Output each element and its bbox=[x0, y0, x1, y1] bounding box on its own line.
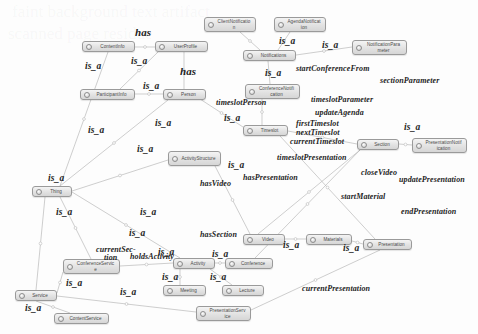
node-notifications[interactable]: Notifications bbox=[243, 50, 296, 61]
node-label: Timeslot bbox=[256, 128, 283, 133]
edge-midpoint-marker bbox=[220, 112, 223, 115]
node-meeting[interactable]: Meeting bbox=[163, 285, 206, 296]
edge-label-isa-3: is_a bbox=[279, 36, 295, 46]
edge-label-updateAgenda: updateAgenda bbox=[315, 108, 364, 117]
edge-label-sectionParameter: sectionParameter bbox=[380, 76, 439, 85]
node-label: ContentService bbox=[67, 316, 104, 321]
edge-label-hasPresentation: hasPresentation bbox=[243, 173, 298, 182]
edge-service-to-conferenceService bbox=[57, 272, 63, 293]
node-notificationParameter[interactable]: NotificationParameter bbox=[352, 40, 407, 55]
node-presentation[interactable]: Presentation bbox=[363, 239, 412, 250]
edge-label-timeslotPresentation: timeslotPresentation bbox=[277, 153, 347, 162]
node-label: Presentation bbox=[376, 242, 407, 247]
class-bullet-icon bbox=[36, 189, 42, 195]
node-presentationService[interactable]: PresentationService bbox=[196, 306, 251, 321]
node-conference[interactable]: Conference bbox=[225, 258, 273, 269]
edge-label-isa-11: is_a bbox=[228, 160, 244, 170]
node-label: ContentInfo bbox=[95, 44, 130, 49]
edge-label-isa-13: is_a bbox=[137, 144, 153, 154]
node-timeslot[interactable]: Timeslot bbox=[243, 125, 288, 136]
edge-midpoint-marker bbox=[249, 40, 252, 43]
edge-midpoint-marker bbox=[404, 143, 407, 146]
edge-thing-to-service bbox=[36, 197, 45, 290]
node-agendaNotification[interactable]: AgendaNotification bbox=[274, 17, 326, 32]
edge-label-isa-20: is_a bbox=[212, 249, 228, 259]
edge-midpoint-marker bbox=[39, 242, 42, 245]
class-bullet-icon bbox=[167, 288, 173, 294]
edge-label-isa-15: is_a bbox=[140, 207, 156, 217]
node-video[interactable]: Video bbox=[243, 234, 285, 245]
edge-label-isa-23: is_a bbox=[210, 272, 226, 282]
class-bullet-icon bbox=[200, 311, 206, 317]
edge-label-startConferenceFrom: startConferenceFrom bbox=[296, 64, 369, 73]
edge-label-closeVideo: closeVideo bbox=[361, 168, 397, 177]
node-service[interactable]: Service bbox=[15, 290, 57, 301]
edge-midpoint-marker bbox=[144, 46, 147, 49]
node-contentService[interactable]: ContentService bbox=[54, 313, 109, 324]
class-bullet-icon bbox=[177, 261, 183, 267]
node-activity[interactable]: Activity bbox=[173, 258, 215, 269]
edge-label-firstTimeslot: firstTimeslot bbox=[296, 119, 339, 128]
node-label: Lecture bbox=[235, 288, 259, 293]
edge-label-isa-18: is_a bbox=[343, 243, 359, 253]
node-section[interactable]: Section bbox=[357, 139, 399, 150]
edge-midpoint-marker bbox=[323, 50, 326, 53]
node-label: Thing bbox=[45, 189, 67, 194]
edge-label-currentPresentation: currentPresentation bbox=[302, 284, 370, 293]
class-bullet-icon bbox=[356, 45, 362, 51]
node-label: ActivityStructure bbox=[181, 156, 216, 161]
node-conferenceNotification[interactable]: ConferenceNotification bbox=[245, 84, 300, 99]
edge-label-has-top: has bbox=[135, 26, 151, 38]
node-person[interactable]: Person bbox=[163, 89, 206, 100]
edge-midpoint-marker bbox=[306, 203, 309, 206]
node-label: PresentationService bbox=[209, 308, 246, 318]
node-userProfile[interactable]: UserProfile bbox=[155, 41, 208, 52]
node-label: Person bbox=[176, 92, 201, 97]
node-participantInfo[interactable]: ParticipantInfo bbox=[80, 89, 135, 100]
edge-midpoint-marker bbox=[83, 118, 86, 121]
edge-label-timeslotParameter: timeslotParameter bbox=[311, 95, 373, 104]
node-clientNotification[interactable]: ClientNotification bbox=[204, 17, 256, 32]
edge-midpoint-marker bbox=[314, 279, 317, 282]
node-activityStructure[interactable]: ActivityStructure bbox=[168, 151, 221, 166]
edge-midpoint-marker bbox=[179, 276, 182, 279]
class-bullet-icon bbox=[167, 92, 173, 98]
edge-label-isa-19: is_a bbox=[158, 247, 174, 257]
edge-label-isa-12: is_a bbox=[48, 173, 64, 183]
edge-label-isa-22: is_a bbox=[162, 272, 178, 282]
edge-midpoint-marker bbox=[125, 224, 128, 227]
edge-midpoint-marker bbox=[119, 174, 122, 177]
edge-midpoint-marker bbox=[231, 199, 234, 202]
edge-midpoint-marker bbox=[148, 93, 151, 96]
class-bullet-icon bbox=[159, 44, 165, 50]
edge-label-hasVideo: hasVideo bbox=[200, 179, 231, 188]
edge-label-isa-21: is_a bbox=[66, 278, 82, 288]
node-label: ConferenceNotification bbox=[258, 86, 295, 96]
class-bullet-icon bbox=[172, 156, 178, 162]
node-thing[interactable]: Thing bbox=[32, 186, 72, 197]
edge-midpoint-marker bbox=[113, 142, 116, 145]
edge-label-isa-7: is_a bbox=[88, 125, 104, 135]
class-bullet-icon bbox=[416, 143, 422, 149]
edge-timeslot-to-presentation bbox=[280, 136, 375, 239]
edge-label-isa-9: is_a bbox=[224, 113, 240, 123]
node-contentInfo[interactable]: ContentInfo bbox=[82, 41, 135, 52]
edge-label-hasSection: hasSection bbox=[200, 230, 237, 239]
node-lecture[interactable]: Lecture bbox=[222, 285, 264, 296]
class-bullet-icon bbox=[278, 22, 284, 28]
class-bullet-icon bbox=[247, 128, 253, 134]
edge-midpoint-marker bbox=[326, 186, 329, 189]
node-presentationNotification[interactable]: PresentationNotification bbox=[412, 138, 467, 153]
edge-midpoint-marker bbox=[125, 303, 128, 306]
node-label: UserProfile bbox=[168, 44, 203, 49]
node-label: Video bbox=[256, 237, 280, 242]
class-bullet-icon bbox=[367, 242, 373, 248]
edge-midpoint-marker bbox=[59, 281, 62, 284]
class-bullet-icon bbox=[247, 53, 253, 59]
node-label: PresentationNotification bbox=[425, 140, 462, 150]
edge-midpoint-marker bbox=[138, 69, 141, 72]
edge-label-isa-25: is_a bbox=[25, 303, 41, 313]
edge-label-currentSection2: tion bbox=[104, 253, 117, 262]
ontology-diagram-canvas: faint background text artifact scanned p… bbox=[0, 0, 478, 334]
edge-label-startMaterial: startMaterial bbox=[341, 192, 385, 201]
